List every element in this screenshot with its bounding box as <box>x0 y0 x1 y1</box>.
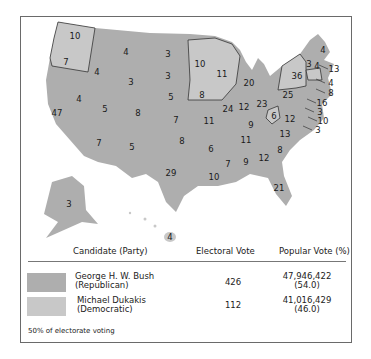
state-label-wa: 10 <box>70 31 81 41</box>
state-label-in: 12 <box>239 102 250 112</box>
state-label-tx: 29 <box>166 168 177 178</box>
legend-divider <box>28 261 346 262</box>
state-label-ri: 4 <box>328 78 333 88</box>
candidate-party: (Republican) <box>75 281 154 290</box>
state-label-nv: 4 <box>76 94 81 104</box>
state-wa-or <box>50 22 95 72</box>
state-label-ut: 5 <box>102 104 107 114</box>
state-label-ct: 8 <box>328 88 333 98</box>
state-label-ia: 8 <box>199 90 204 100</box>
state-label-ne: 5 <box>168 92 173 102</box>
state-label-co: 8 <box>135 108 140 118</box>
state-label-ky: 9 <box>248 120 253 130</box>
legend-header-candidate: Candidate (Party) <box>73 246 148 256</box>
state-label-sd: 3 <box>165 71 170 81</box>
bush-electoral-vote: 426 <box>208 277 258 287</box>
state-label-mn: 10 <box>195 59 206 69</box>
dukakis-popular-vote: 41,016,429 (46.0) <box>272 296 342 314</box>
state-label-wi: 11 <box>217 69 228 79</box>
bush-candidate: George H. W. Bush (Republican) <box>75 272 154 290</box>
state-label-ga: 12 <box>259 153 270 163</box>
state-label-nc: 13 <box>280 129 291 139</box>
state-label-wy: 3 <box>128 77 133 87</box>
state-label-la: 10 <box>209 172 220 182</box>
state-label-nd: 3 <box>165 49 170 59</box>
state-label-oh: 23 <box>257 99 268 109</box>
state-label-id: 4 <box>94 67 99 77</box>
state-label-nh: 4 <box>314 61 319 71</box>
state-label-ca: 47 <box>52 108 63 118</box>
dukakis-electoral-vote: 112 <box>208 300 258 310</box>
state-label-ny: 36 <box>292 71 303 81</box>
legend-header-electoral: Electoral Vote <box>196 246 255 256</box>
state-label-ms: 7 <box>225 159 230 169</box>
state-label-nm: 5 <box>129 142 134 152</box>
popular-percent: (46.0) <box>272 305 342 314</box>
republican-swatch <box>27 273 66 292</box>
bush-popular-vote: 47,946,422 (54.0) <box>272 272 342 290</box>
state-label-ma: 13 <box>329 64 340 74</box>
state-label-or: 7 <box>63 57 68 67</box>
state-label-wv: 6 <box>271 111 276 121</box>
state-label-pa: 25 <box>283 90 294 100</box>
popular-percent: (54.0) <box>272 281 342 290</box>
footnote: 50% of electorate voting <box>28 327 115 335</box>
legend-header-popular: Popular Vote (%) <box>279 246 350 256</box>
state-label-sc: 8 <box>277 145 282 155</box>
state-label-fl: 21 <box>274 183 285 193</box>
state-label-ar: 6 <box>208 144 213 154</box>
democratic-swatch <box>27 297 66 316</box>
state-label-al: 9 <box>243 157 248 167</box>
state-label-il: 24 <box>223 104 234 114</box>
candidate-party: (Democratic) <box>77 305 146 314</box>
state-label-me: 4 <box>320 45 325 55</box>
state-label-dc: 3 <box>315 125 320 135</box>
state-label-mi: 20 <box>244 78 255 88</box>
state-label-tn: 11 <box>241 135 252 145</box>
state-label-ks: 7 <box>173 115 178 125</box>
state-label-va: 12 <box>285 114 296 124</box>
state-label-ak: 3 <box>66 199 71 209</box>
state-label-mo: 11 <box>204 116 215 126</box>
state-label-vt: 3 <box>306 59 311 69</box>
state-label-az: 7 <box>96 138 101 148</box>
state-label-hi: 4 <box>167 232 172 242</box>
state-label-mt: 4 <box>123 47 128 57</box>
dukakis-candidate: Michael Dukakis (Democratic) <box>77 296 146 314</box>
state-label-ok: 8 <box>179 136 184 146</box>
